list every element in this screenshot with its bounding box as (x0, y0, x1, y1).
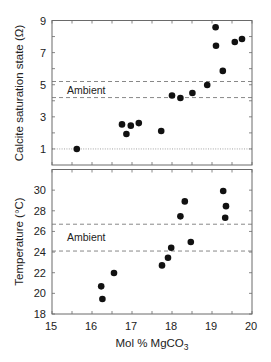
data-point (123, 131, 130, 138)
data-point (189, 90, 196, 97)
data-point (239, 36, 246, 43)
y-tick-label: 9 (40, 15, 46, 27)
y-axis-label-calcite: Calcite saturation state (Ω) (13, 25, 25, 162)
data-point (213, 42, 220, 49)
y-tick-label: 7 (40, 47, 46, 59)
ambient-label: Ambient (67, 231, 106, 243)
data-point (220, 68, 227, 75)
data-point (119, 121, 126, 128)
y-tick-label: 26 (34, 225, 46, 237)
x-axis-label-subscript: 3 (184, 342, 189, 352)
x-tick-label: 15 (45, 320, 57, 332)
data-point (222, 214, 229, 221)
x-tick-label: 16 (85, 320, 97, 332)
data-point (168, 244, 175, 251)
data-point (220, 188, 227, 195)
data-point (74, 146, 81, 153)
y-tick-label: 20 (34, 287, 46, 299)
y-tick-label: 3 (40, 111, 46, 123)
x-tick-label: 20 (245, 320, 257, 332)
data-point (128, 122, 135, 129)
y-tick-label: 1 (40, 143, 46, 155)
data-point (212, 24, 219, 31)
data-point (204, 82, 211, 89)
x-tick-label: 18 (165, 320, 177, 332)
data-point (98, 283, 105, 290)
data-point (182, 198, 189, 205)
data-point (177, 213, 184, 220)
data-point (111, 270, 118, 277)
data-point (232, 39, 239, 46)
y-tick-label: 24 (34, 246, 46, 258)
data-point (159, 262, 166, 269)
x-tick-label: 17 (125, 320, 137, 332)
data-point (169, 92, 176, 99)
y-axis-label-temperature: Temperature (°C) (13, 197, 25, 285)
data-point (177, 95, 184, 102)
data-point (158, 128, 165, 135)
y-tick-label: 30 (34, 184, 46, 196)
data-point (165, 254, 172, 261)
y-tick-label: 5 (40, 79, 46, 91)
x-axis-label-text: Mol % MgCO (115, 337, 183, 349)
y-tick-label: 22 (34, 267, 46, 279)
ambient-label: Ambient (67, 84, 106, 96)
y-tick-label: 28 (34, 205, 46, 217)
figure: 13579 Ambient Calcite saturation state (… (0, 0, 271, 362)
data-point (188, 239, 195, 246)
data-point (223, 203, 230, 210)
x-tick-label: 19 (205, 320, 217, 332)
y-tick-label: 18 (34, 308, 46, 320)
data-point (136, 120, 143, 127)
data-point (99, 296, 106, 303)
